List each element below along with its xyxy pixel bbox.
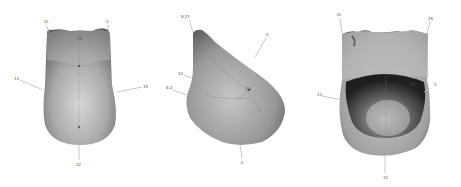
label: 14: [14, 76, 20, 81]
label: 2: [434, 82, 437, 87]
label: 14: [410, 82, 416, 87]
label: 2: [241, 160, 244, 165]
label: 2L: [44, 19, 50, 24]
label: 8.2: [166, 85, 173, 90]
label: 16: [246, 86, 252, 91]
lateral-view: [172, 20, 285, 158]
label: 10: [178, 71, 184, 76]
label: 2: [106, 19, 109, 24]
label: 8.2Y: [181, 14, 190, 19]
anterior-view: [20, 25, 142, 160]
label: 2S: [428, 16, 434, 21]
label: 12: [383, 175, 389, 180]
label: 2S: [77, 36, 83, 41]
posterior-view: [322, 18, 430, 173]
label: 13: [317, 92, 323, 97]
label: 2: [266, 32, 269, 37]
label: 15: [143, 84, 149, 89]
label: 12: [76, 162, 82, 167]
figure-canvas: 2L 2 2S 14 15 12 8.2Y 2 10 8.2 16 2 2L 2…: [0, 0, 461, 187]
label: 2L: [337, 12, 343, 17]
